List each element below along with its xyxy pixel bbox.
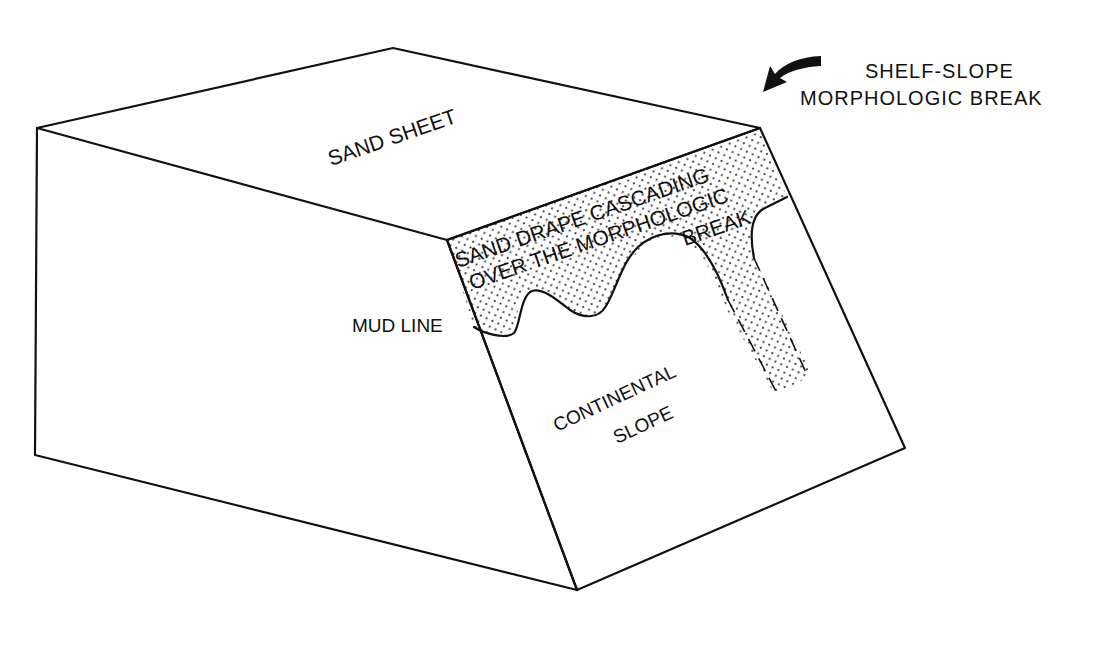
label-callout-line1: SHELF-SLOPE — [865, 60, 1014, 82]
label-slope: SLOPE — [610, 402, 676, 448]
label-mud-line: MUD LINE — [352, 315, 443, 336]
label-sand-sheet: SAND SHEET — [325, 104, 460, 169]
block-diagram: SAND SHEET SAND DRAPE CASCADING OVER THE… — [0, 0, 1109, 648]
left-face — [35, 128, 577, 590]
label-callout-line2: MORPHOLOGIC BREAK — [800, 87, 1043, 109]
